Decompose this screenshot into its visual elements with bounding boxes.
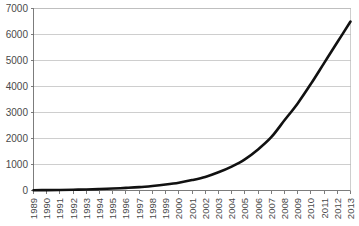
x-tick-label: 1991 — [54, 198, 65, 219]
line-chart: 01000200030004000500060007000 1989199019… — [0, 0, 359, 226]
x-axis-tick-labels: 1989199019911992199319941995199619971998… — [28, 198, 356, 219]
x-tick-label: 2002 — [200, 198, 211, 219]
x-tick-label: 2004 — [226, 198, 237, 219]
chart-container: 01000200030004000500060007000 1989199019… — [0, 0, 359, 226]
x-tick-label: 2003 — [213, 198, 224, 219]
y-tick-label: 2000 — [6, 133, 29, 144]
data-series — [34, 22, 351, 191]
x-tick-label: 2001 — [187, 198, 198, 219]
x-tick-label: 2013 — [345, 198, 356, 219]
x-tick-label: 2010 — [305, 198, 316, 219]
x-tick-label: 1990 — [41, 198, 52, 219]
x-tick-label: 2005 — [239, 198, 250, 219]
x-tick-label: 1993 — [81, 198, 92, 219]
y-tick-label: 6000 — [6, 29, 29, 40]
x-tick-label: 2011 — [319, 198, 330, 218]
x-tick-label: 2007 — [266, 198, 277, 219]
x-tick-label: 1997 — [134, 198, 145, 219]
x-tick-label: 1998 — [147, 198, 158, 219]
x-tick-label: 1992 — [68, 198, 79, 219]
y-tick-label: 7000 — [6, 3, 29, 14]
plot-frame — [34, 9, 351, 191]
x-tick-label: 1996 — [120, 198, 131, 219]
x-tick-label: 2012 — [332, 198, 343, 219]
x-tick-label: 1994 — [94, 198, 105, 219]
x-tick-label: 1999 — [160, 198, 171, 219]
x-tick-label: 1989 — [28, 198, 39, 219]
y-tick-label: 4000 — [6, 81, 29, 92]
y-tick-label: 5000 — [6, 55, 29, 66]
y-tick-label: 3000 — [6, 107, 29, 118]
y-axis-tick-labels: 01000200030004000500060007000 — [6, 3, 29, 196]
x-tick-label: 2006 — [253, 198, 264, 219]
y-tick-label: 0 — [22, 185, 28, 196]
x-tick-label: 2009 — [292, 198, 303, 219]
x-tick-label: 2008 — [279, 198, 290, 219]
x-tick-label: 2000 — [173, 198, 184, 219]
y-tick-label: 1000 — [6, 159, 29, 170]
gridlines — [34, 9, 351, 165]
series-line — [34, 22, 351, 191]
x-tick-label: 1995 — [107, 198, 118, 219]
